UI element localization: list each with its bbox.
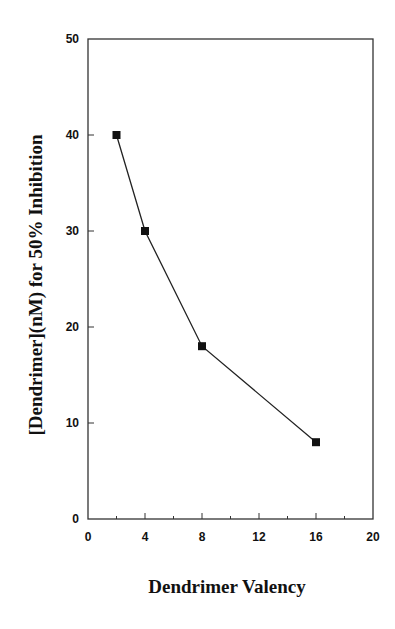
x-tick-label: 16 xyxy=(309,530,323,544)
y-tick-label: 40 xyxy=(66,128,80,142)
y-tick-label: 20 xyxy=(66,320,80,334)
data-point-marker xyxy=(113,131,121,139)
y-tick-label: 30 xyxy=(66,224,80,238)
y-axis-ticks: 01020304050 xyxy=(66,32,94,526)
data-point-marker xyxy=(198,342,206,350)
y-tick-label: 0 xyxy=(72,512,79,526)
y-tick-label: 10 xyxy=(66,416,80,430)
data-series xyxy=(113,131,321,446)
x-tick-label: 20 xyxy=(366,530,380,544)
plot-border xyxy=(88,39,373,519)
x-tick-label: 8 xyxy=(199,530,206,544)
line-chart: 048121620 01020304050 Dendrimer Valency … xyxy=(0,0,395,629)
data-point-marker xyxy=(141,227,149,235)
x-axis-ticks: 048121620 xyxy=(85,513,380,544)
x-axis-title: Dendrimer Valency xyxy=(148,576,306,597)
plot-frame xyxy=(88,39,373,519)
x-tick-label: 4 xyxy=(142,530,149,544)
x-tick-label: 12 xyxy=(252,530,266,544)
y-axis-title: [Dendrimer](nM) for 50% Inhibition xyxy=(25,134,47,435)
data-point-marker xyxy=(312,438,320,446)
x-tick-label: 0 xyxy=(85,530,92,544)
y-tick-label: 50 xyxy=(66,32,80,46)
series-line xyxy=(117,135,317,442)
